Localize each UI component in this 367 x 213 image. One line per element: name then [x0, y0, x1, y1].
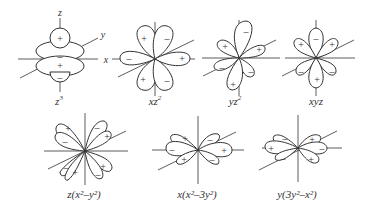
sign: + [57, 33, 63, 44]
sign: + [182, 133, 188, 144]
sign: + [57, 60, 63, 71]
sign: – [219, 62, 226, 73]
x-axis-label: x [103, 54, 109, 65]
sign: – [209, 154, 216, 165]
orbital-label: x(x²–3y²) [176, 188, 217, 201]
sign: – [164, 75, 171, 86]
sign: + [65, 123, 71, 134]
sign: + [298, 39, 304, 50]
sign: + [104, 131, 110, 142]
orbital-label: yz2 [228, 94, 242, 107]
orbital-label: z(x²–y²) [66, 188, 101, 201]
sign: + [309, 134, 315, 145]
sign: – [243, 26, 250, 37]
sign: + [181, 154, 187, 165]
sign: – [207, 134, 214, 145]
sign: + [179, 53, 185, 64]
sign: – [94, 122, 101, 133]
orbital-z3: + – + – z y x z3 [18, 7, 109, 107]
f-orbitals-diagram: + – + – z y x z3 + – – + + – xz2 [0, 0, 367, 213]
orbital-x-x2-3y2: + – – + + – x(x²–3y²) [152, 116, 244, 201]
z-axis-label: z [57, 7, 62, 18]
sign: – [329, 66, 336, 77]
sign: – [126, 53, 133, 64]
sign: – [164, 33, 171, 44]
sign: – [62, 136, 69, 147]
sign: + [100, 161, 106, 172]
orbital-label: y(3y²–x²) [276, 188, 317, 201]
orbital-xz2: + – – + + – xz2 [112, 22, 195, 107]
sign: + [140, 74, 146, 85]
orbital-xyz: – + + – + – xyz [282, 20, 355, 107]
sign: – [169, 144, 176, 155]
orbital-y-3y2-x2: – + + – – + y(3y²–x²) [259, 115, 342, 201]
sign: + [329, 39, 335, 50]
sign: + [268, 143, 274, 154]
sign: + [72, 167, 78, 178]
sign: – [319, 143, 326, 154]
sign: + [230, 79, 236, 90]
y-axis-label: y [100, 29, 106, 40]
sign: – [95, 169, 102, 180]
sign: – [298, 66, 305, 77]
sign: + [141, 33, 147, 44]
sign: – [63, 162, 70, 173]
sign: – [313, 33, 320, 44]
sign: + [221, 145, 227, 156]
sign: + [222, 41, 228, 52]
sign: – [280, 153, 287, 164]
sign: – [57, 72, 64, 83]
orbital-label: xyz [308, 95, 324, 107]
orbital-label: xz2 [148, 94, 162, 107]
orbital-label: z3 [54, 94, 63, 107]
sign: + [314, 74, 320, 85]
orbital-z-x2-y2: + – – + – + + – z(x²–y²) [44, 113, 128, 201]
sign: – [282, 133, 289, 144]
sign: + [308, 154, 314, 165]
sign: + [256, 44, 262, 55]
sign: – [248, 66, 255, 77]
orbital-yz2: – + + – – + yz2 [202, 20, 280, 107]
